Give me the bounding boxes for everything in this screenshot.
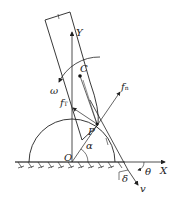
label-X: X [160, 166, 167, 176]
label-theta: θ [145, 167, 151, 177]
label-Y: Y [76, 28, 83, 38]
label-omega: ω [50, 86, 58, 96]
label-O: O [64, 153, 72, 163]
label-alpha: α [86, 141, 93, 151]
label-C: C [80, 64, 88, 74]
label-delta: δ [122, 174, 128, 184]
label-f-tau: fT [60, 98, 68, 108]
label-f-n: fn [121, 82, 129, 92]
diagram: Y C ω fT fn P α O X δ θ v [0, 0, 175, 200]
label-P: P [88, 127, 95, 137]
label-v: v [140, 184, 146, 194]
